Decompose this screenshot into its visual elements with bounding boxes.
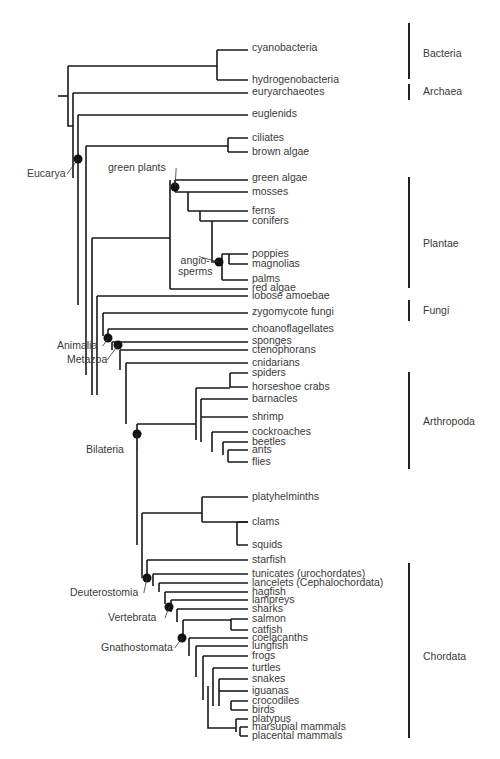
branch xyxy=(171,600,248,612)
tip-label-conifers: conifers xyxy=(252,215,289,226)
branch xyxy=(217,50,248,80)
branch xyxy=(228,138,248,152)
plantae-bracket xyxy=(408,177,410,288)
archaea-bracket xyxy=(408,84,410,100)
chordata-bracket xyxy=(408,563,410,738)
branch xyxy=(219,679,248,706)
tip-label-magnolias: magnolias xyxy=(252,258,300,269)
deuterostomia-clade-label: Deuterostomia xyxy=(70,587,138,598)
metazoa-clade-label: Metazoa xyxy=(67,354,107,365)
branch xyxy=(203,656,248,700)
arthropoda-bracket xyxy=(408,372,410,469)
bacteria-bracket xyxy=(408,23,410,79)
tip-label-starfish: starfish xyxy=(252,554,286,565)
branch xyxy=(201,399,248,442)
tip-label-ciliates: ciliates xyxy=(252,132,284,143)
tip-label-ctenophorans: ctenophorans xyxy=(252,344,316,355)
tip-label-zygomycote-fungi: zygomycote fungi xyxy=(252,306,334,317)
animalia-clade-label: Animalia xyxy=(57,340,97,351)
tip-label-flies: flies xyxy=(252,456,271,467)
tip-label-cyanobacteria: cyanobacteria xyxy=(252,42,317,53)
tip-label-squids: squids xyxy=(252,539,282,550)
branch xyxy=(210,719,248,732)
angiosperms-clade-label: angio- sperms xyxy=(178,255,212,277)
fungi-group-label: Fungi xyxy=(423,304,449,316)
branch xyxy=(228,450,248,462)
tip-label-shrimp: shrimp xyxy=(252,411,284,422)
tip-label-clams: clams xyxy=(252,516,279,527)
branch xyxy=(212,221,219,262)
tip-label-choanoflagellates: choanoflagellates xyxy=(252,323,334,334)
vertebrata-clade-label: Vertebrata xyxy=(108,612,156,623)
tree-branches xyxy=(58,50,248,736)
fungi-bracket xyxy=(408,300,410,321)
branch xyxy=(222,254,248,280)
tip-label-platyhelminths: platyhelminths xyxy=(252,491,319,502)
tip-label-euglenids: euglenids xyxy=(252,108,297,119)
tip-label-placental-mammals: placental mammals xyxy=(252,730,342,741)
chordata-group-label: Chordata xyxy=(423,650,466,662)
branch xyxy=(237,522,248,545)
tip-label-mosses: mosses xyxy=(252,186,288,197)
branch xyxy=(202,497,248,522)
tip-label-ants: ants xyxy=(252,444,272,455)
gnathostomata-clade-label: Gnathostomata xyxy=(101,642,173,653)
branch xyxy=(223,442,248,455)
branch xyxy=(120,350,248,370)
tip-label-euryarchaeotes: euryarchaeotes xyxy=(252,86,324,97)
tip-label-hydrogenobacteria: hydrogenobacteria xyxy=(252,74,339,85)
tip-label-green-algae: green algae xyxy=(252,172,307,183)
green-plants-clade-label: green plants xyxy=(108,162,166,173)
branch xyxy=(229,254,248,264)
tip-label-horseshoe-crabs: horseshoe crabs xyxy=(252,381,330,392)
branch xyxy=(103,313,248,336)
bacteria-group-label: Bacteria xyxy=(423,47,462,59)
tip-label-snakes: snakes xyxy=(252,673,285,684)
phylogenetic-tree xyxy=(0,0,500,759)
plantae-group-label: Plantae xyxy=(423,237,459,249)
tip-label-lobose-amoebae: lobose amoebae xyxy=(252,290,330,301)
branch xyxy=(200,211,248,221)
tip-label-frogs: frogs xyxy=(252,650,275,661)
branch xyxy=(175,180,248,192)
branch xyxy=(153,574,248,586)
tip-label-spiders: spiders xyxy=(252,367,286,378)
arthropoda-group-label: Arthropoda xyxy=(423,415,475,427)
branch xyxy=(189,638,248,656)
branch xyxy=(126,363,248,424)
branch xyxy=(108,329,248,342)
branch xyxy=(231,701,248,710)
branch xyxy=(165,592,248,604)
branch xyxy=(137,424,196,545)
branch xyxy=(188,192,248,211)
branch xyxy=(142,513,202,578)
branch xyxy=(208,686,210,728)
branch xyxy=(230,373,248,387)
archaea-group-label: Archaea xyxy=(423,85,462,97)
tip-label-brown-algae: brown algae xyxy=(252,146,309,157)
branch xyxy=(231,619,248,630)
bilateria-clade-label: Bilateria xyxy=(86,444,124,455)
branch xyxy=(183,620,231,637)
tip-label-barnacles: barnacles xyxy=(252,393,298,404)
branch xyxy=(112,342,248,350)
branch xyxy=(240,727,248,736)
eucarya-clade-label: Eucarya xyxy=(27,168,66,179)
branch xyxy=(147,560,248,578)
branch xyxy=(159,583,248,592)
